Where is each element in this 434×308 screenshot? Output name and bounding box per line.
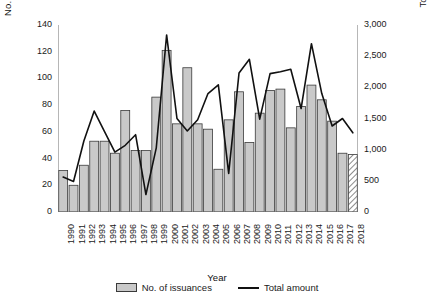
- bar: [204, 129, 213, 212]
- x-axis-tick-label: 2010: [274, 224, 283, 244]
- y-axis-left-tick-label: 80: [20, 100, 52, 109]
- x-axis-tick-label: 2007: [243, 224, 252, 244]
- x-axis-tick-label: 1997: [140, 224, 149, 244]
- plot-area: [58, 25, 358, 212]
- y-axis-left-tick-label: 120: [20, 47, 52, 56]
- bar: [90, 141, 99, 212]
- y-axis-left-tick-label: 0: [20, 207, 52, 216]
- x-axis-tick-label: 1999: [160, 224, 169, 244]
- bar: [245, 143, 254, 212]
- x-axis-tick-label: 1993: [98, 224, 107, 244]
- x-axis-tick-label: 1998: [150, 224, 159, 244]
- plot-svg: [58, 25, 358, 212]
- bar: [79, 165, 88, 212]
- legend-bar-swatch: [116, 283, 137, 292]
- x-axis-tick-label: 2002: [191, 224, 200, 244]
- y-axis-right-tick-label: 2,500: [364, 51, 404, 60]
- x-axis-tick-label: 2006: [233, 224, 242, 244]
- y-axis-left-tick-label: 60: [20, 127, 52, 136]
- bar: [276, 89, 285, 212]
- bar: [100, 141, 109, 212]
- bar: [183, 68, 192, 212]
- y-axis-right-tick-label: 0: [364, 207, 404, 216]
- x-axis-tick-label: 1995: [119, 224, 128, 244]
- x-axis-tick-label: 1994: [109, 224, 118, 244]
- x-axis-tick-label: 2013: [305, 224, 314, 244]
- bar: [328, 121, 337, 212]
- bar: [266, 90, 275, 212]
- bar: [110, 153, 119, 212]
- y-axis-right-tick-label: 1,500: [364, 114, 404, 123]
- bar: [317, 100, 326, 212]
- chart-legend: No. of issuances Total amount: [0, 282, 434, 293]
- legend-line-swatch: [238, 287, 259, 289]
- x-axis-tick-label: 2008: [253, 224, 262, 244]
- bar: [255, 113, 264, 212]
- x-axis-tick-label: 2003: [202, 224, 211, 244]
- bar: [173, 124, 182, 212]
- x-axis-tick-label: 2018: [357, 224, 366, 244]
- y-axis-left-tick-label: 100: [20, 73, 52, 82]
- bar: [214, 169, 223, 212]
- y-axis-left-title: No. of issuances: [2, 0, 13, 50]
- x-axis-tick-label: 1991: [78, 224, 87, 244]
- legend-item-issuances: No. of issuances: [116, 282, 212, 293]
- bar: [297, 106, 306, 212]
- bar: [286, 128, 295, 212]
- x-axis-tick-label: 2009: [264, 224, 273, 244]
- legend-line-label: Total amount: [264, 282, 318, 293]
- legend-item-total-amount: Total amount: [238, 282, 318, 293]
- bar: [121, 110, 130, 212]
- x-axis-tick-label: 1992: [88, 224, 97, 244]
- x-axis-tick-label: 2016: [336, 224, 345, 244]
- x-axis-tick-label: 2001: [181, 224, 190, 244]
- x-axis-tick-label: 2011: [284, 225, 293, 244]
- y-axis-right-tick-label: 1,000: [364, 145, 404, 154]
- y-axis-left-tick-label: 20: [20, 180, 52, 189]
- chart-figure: No. of issuances Total amount (JPY billi…: [0, 0, 434, 308]
- x-axis-tick-label: 2000: [171, 224, 180, 244]
- x-axis-tick-label: 2012: [295, 224, 304, 244]
- y-axis-right-tick-label: 3,000: [364, 20, 404, 29]
- y-axis-right-tick-label: 500: [364, 176, 404, 185]
- legend-bar-label: No. of issuances: [142, 282, 212, 293]
- y-axis-left-tick-label: 40: [20, 154, 52, 163]
- bar: [69, 185, 78, 212]
- x-axis-tick-label: 2015: [326, 224, 335, 244]
- bar: [307, 85, 316, 212]
- x-axis-tick-label: 2005: [222, 224, 231, 244]
- x-axis-tick-label: 2014: [315, 224, 324, 244]
- bar: [348, 155, 357, 212]
- y-axis-right-title: Total amount (JPY billions): [417, 0, 428, 35]
- bar: [131, 151, 140, 212]
- bar: [338, 153, 347, 212]
- x-axis-tick-label: 1990: [67, 224, 76, 244]
- x-axis-tick-label: 1996: [129, 224, 138, 244]
- y-axis-left-tick-label: 140: [20, 20, 52, 29]
- x-axis-tick-label: 2017: [346, 224, 355, 244]
- y-axis-right-tick-label: 2,000: [364, 82, 404, 91]
- x-axis-tick-label: 2004: [212, 224, 221, 244]
- bar: [193, 124, 202, 212]
